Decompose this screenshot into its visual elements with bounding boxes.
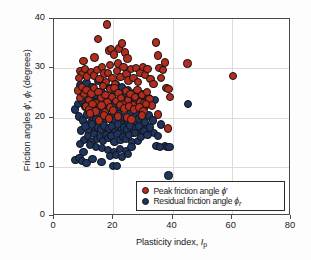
data-point-peak [90, 53, 98, 61]
scatter-chart-figure: Friction angles ϕ', ϕr (degrees) Plastic… [0, 0, 311, 260]
data-point-peak [159, 66, 167, 74]
data-point-peak [79, 57, 87, 65]
legend-phi-r-subscript: r [239, 200, 241, 207]
data-point-residual [165, 143, 173, 151]
legend-label-peak: Peak friction angle ϕ' [153, 186, 227, 196]
data-point-peak [149, 80, 157, 88]
x-axis-tick-label: 20 [97, 220, 127, 230]
y-axis-tick [49, 18, 53, 19]
data-point-peak [114, 112, 122, 120]
phi-prime-symbol: ϕ [22, 105, 32, 110]
data-point-peak [94, 35, 102, 43]
chart-legend: Peak friction angle ϕ' Residual friction… [136, 181, 285, 211]
data-point-peak [86, 109, 94, 117]
x-axis-title-text: Plasticity index, [136, 237, 201, 247]
y-axis-tick [49, 215, 53, 216]
data-point-residual [154, 132, 162, 140]
plasticity-index-subscript: p [203, 241, 207, 248]
x-axis-tick-label: 0 [38, 220, 68, 230]
x-axis-tick [112, 215, 113, 219]
y-axis-title-comma: , [22, 98, 32, 103]
y-axis-tick [49, 117, 53, 118]
y-axis-tick-label: 40 [14, 12, 45, 22]
x-axis-tick [53, 215, 54, 219]
legend-item-residual: Residual friction angle ϕr [142, 196, 279, 207]
y-axis-tick-label: 20 [14, 111, 45, 121]
y-axis-tick-label: 0 [14, 209, 45, 219]
data-point-residual [164, 171, 172, 179]
phi-r-symbol: ϕ [22, 93, 32, 98]
x-axis-tick-label: 60 [216, 220, 246, 230]
data-point-peak [123, 54, 131, 62]
data-point-peak [154, 110, 162, 118]
legend-marker-peak-icon [142, 187, 149, 194]
x-axis-tick-label: 80 [275, 220, 305, 230]
legend-phi-prime-mark: ' [226, 186, 227, 196]
data-point-peak [161, 58, 169, 66]
legend-item-peak: Peak friction angle ϕ' [142, 185, 279, 196]
x-axis-tick [172, 215, 173, 219]
data-point-peak [103, 20, 111, 28]
data-point-peak [164, 85, 172, 93]
data-point-peak [118, 39, 126, 47]
data-point-peak [105, 114, 113, 122]
x-axis-tick-label: 40 [157, 220, 187, 230]
data-point-peak [157, 74, 165, 82]
legend-marker-residual-icon [142, 198, 149, 205]
data-point-residual [156, 143, 164, 151]
data-point-residual [124, 150, 132, 158]
data-point-peak [138, 111, 146, 119]
data-point-peak [142, 100, 150, 108]
data-point-residual [113, 162, 121, 170]
data-point-residual [79, 148, 87, 156]
data-point-peak [152, 38, 160, 46]
phi-r-subscript: r [25, 91, 32, 93]
data-point-peak [134, 78, 142, 86]
legend-label-residual: Residual friction angle ϕr [153, 196, 241, 207]
x-axis-title: Plasticity index, Ip [53, 237, 290, 248]
y-axis-tick [49, 67, 53, 68]
data-point-peak [183, 59, 191, 67]
y-axis-tick [49, 166, 53, 167]
y-axis-tick-label: 10 [14, 160, 45, 170]
data-point-peak [229, 72, 237, 80]
data-point-residual [97, 158, 105, 166]
data-point-peak [143, 65, 151, 73]
data-point-peak [95, 116, 103, 124]
data-point-residual [184, 100, 192, 108]
y-axis-tick-label: 30 [14, 61, 45, 71]
data-point-peak [127, 115, 135, 123]
data-point-residual [143, 131, 151, 139]
data-point-residual [88, 155, 96, 163]
x-axis-tick [231, 215, 232, 219]
gridline-horizontal [54, 167, 289, 168]
data-point-peak [164, 124, 172, 132]
x-axis-tick [290, 215, 291, 219]
